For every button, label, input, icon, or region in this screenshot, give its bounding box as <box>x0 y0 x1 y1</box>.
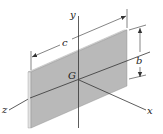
y-axis-label: y <box>69 9 76 20</box>
x-axis-label: x <box>147 105 153 116</box>
b-extension-bottom <box>129 75 146 79</box>
c-label: c <box>62 37 68 48</box>
plate-left-edge <box>28 72 31 128</box>
b-extension-top <box>129 25 146 30</box>
z-axis-label: z <box>1 104 8 115</box>
z-axis-line <box>9 98 30 110</box>
centroid-label: G <box>68 70 76 81</box>
c-dimension-line-left <box>32 45 60 57</box>
b-label: b <box>136 55 142 66</box>
plate-diagram: c b y z x G <box>0 0 163 134</box>
